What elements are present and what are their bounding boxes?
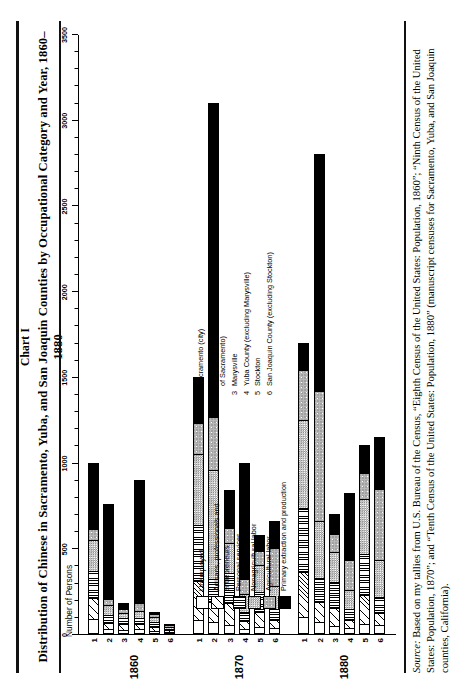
- category-label: 4: [135, 638, 144, 648]
- category-label: 2: [210, 638, 219, 648]
- bar-segment: [135, 611, 144, 618]
- bar-segment: [375, 560, 384, 597]
- scale-axis-line: [78, 35, 79, 635]
- legend-place-number: 2: [208, 386, 229, 395]
- bar-segment: [165, 625, 174, 627]
- bar-segment: [345, 628, 354, 633]
- bar-segment: [225, 625, 234, 633]
- source-note: Source: Based on my tallies from U.S. Bu…: [410, 23, 452, 673]
- bar-segment: [135, 618, 144, 624]
- legend-place-item: 6San Joaquin County (excluding Stockton): [265, 252, 276, 395]
- bar-segment: [135, 481, 144, 604]
- bar-segment: [315, 602, 324, 622]
- bar-segment: [299, 370, 308, 420]
- legend-place-item: 1Sacramento (city): [196, 252, 207, 395]
- legend-place-item: 2Sacramento County (excluding city of Sa…: [208, 252, 229, 395]
- bar-segment: [89, 571, 98, 598]
- bar: [344, 493, 355, 634]
- axis-tick-label: 2500: [60, 198, 69, 214]
- bar-segment: [104, 629, 113, 633]
- bar-segment: [150, 617, 159, 622]
- bar-segment: [360, 446, 369, 472]
- bar: [149, 612, 160, 634]
- bar-segment: [104, 605, 113, 616]
- legend-place-number: 5: [253, 386, 264, 395]
- legend-occupations: UnemployedArtisans, professionals and en…: [196, 482, 293, 609]
- legend-place-label: Sacramento County (excluding city of Sac…: [208, 273, 229, 386]
- bar-segment: [330, 515, 339, 534]
- legend-swatch-unemployed: [196, 596, 209, 609]
- bar-segment: [315, 155, 324, 392]
- bar-segment: [135, 629, 144, 633]
- category-label: 6: [166, 638, 175, 648]
- bar-segment: [315, 521, 324, 578]
- bar-segment: [330, 582, 339, 607]
- bar-segment: [255, 612, 264, 627]
- category-label: 4: [346, 638, 355, 648]
- legend-occupation-label: Artisans, professionals and entrepreneur…: [211, 503, 231, 591]
- axis-tick-label: 2000: [60, 284, 69, 300]
- category-label: 1: [195, 638, 204, 648]
- category-label: 6: [271, 638, 280, 648]
- bar-segment: [240, 621, 249, 629]
- bar-segment: [315, 622, 324, 633]
- source-prefix: Source:: [411, 640, 422, 673]
- bar-segment: [360, 499, 369, 554]
- bar-segment: [315, 578, 324, 603]
- legend-occupation-label: Personal services: [233, 533, 244, 591]
- bar-segment: [240, 629, 249, 633]
- legend-place-label: Sacramento (city): [196, 329, 207, 386]
- category-label: 6: [376, 638, 385, 648]
- axis-label-number-of-persons: Number of Persons: [64, 565, 74, 637]
- bar-segment: [119, 609, 128, 613]
- bar-segment: [135, 603, 144, 611]
- bar-segment: [119, 618, 128, 624]
- legend-occupation-item: Unemployed: [196, 482, 209, 609]
- legend-place-number: 1: [196, 386, 207, 395]
- chart-page: Chart I Distribution of Chinese in Sacra…: [0, 0, 472, 695]
- legend-swatch-agri: [263, 596, 276, 609]
- bar-segment: [270, 620, 279, 628]
- legend-place-label: Stockton: [253, 358, 264, 386]
- bar-segment: [360, 595, 369, 624]
- bar-segment: [315, 391, 324, 520]
- bar-segment: [89, 619, 98, 633]
- year-label: 1880: [338, 651, 350, 683]
- legend-swatch-artisans: [211, 596, 224, 609]
- bar-segment: [270, 609, 279, 620]
- category-label: 3: [120, 638, 129, 648]
- bar-segment: [375, 489, 384, 559]
- bar-segment: [165, 632, 174, 633]
- bar-segment: [165, 630, 174, 631]
- category-label: 2: [105, 638, 114, 648]
- bar-segment: [255, 627, 264, 633]
- bar-segment: [360, 554, 369, 595]
- bar-segment: [375, 613, 384, 626]
- legend-place-number: 4: [242, 386, 253, 395]
- legend-place-item: 3Marysville: [230, 252, 241, 395]
- bar-segment: [165, 629, 174, 631]
- bar-segment: [150, 627, 159, 631]
- legend-occupation-label: Agricultural labor: [263, 536, 274, 591]
- bar: [118, 603, 129, 634]
- year-label: 1860: [128, 651, 140, 683]
- bar: [103, 504, 114, 634]
- category-label: 3: [330, 638, 339, 648]
- bar-segment: [330, 608, 339, 627]
- legend-place-item: 4Yuba County (excluding Marysville): [242, 252, 253, 395]
- category-label: 4: [240, 638, 249, 648]
- bar-segment: [299, 420, 308, 508]
- bar: [164, 624, 175, 634]
- axis-tick-label: 500: [60, 543, 69, 555]
- bar: [314, 154, 325, 634]
- legend-occupation-item: Nonagricultural labor: [248, 482, 261, 609]
- category-label: 5: [361, 638, 370, 648]
- bar-segment: [270, 628, 279, 633]
- bar-segment: [119, 624, 128, 630]
- bar-segment: [119, 613, 128, 618]
- axis-tick-label: 0: [60, 633, 69, 637]
- legend-place-label: Marysville: [230, 354, 241, 386]
- legend-place-label: Yuba County (excluding Marysville): [242, 272, 253, 386]
- bar-segment: [375, 438, 384, 489]
- bar-segment: [345, 609, 354, 620]
